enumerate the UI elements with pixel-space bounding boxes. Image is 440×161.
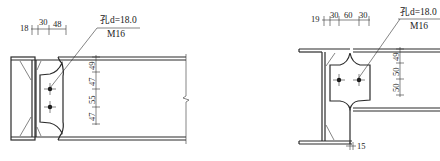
right-dim-15: 15 [357,141,366,151]
left-dim-47b: 47 [87,113,97,122]
left-top-dimension-chain: 18 30 48 [20,17,66,35]
left-dim-18: 18 [20,23,29,33]
left-dim-47a: 47 [87,78,97,87]
left-bolt-2 [44,101,56,113]
left-bolt-1 [44,83,56,95]
break-line [183,54,189,144]
right-dim-30a: 30 [330,10,339,20]
left-connection-detail: 18 30 48 孔d=18.0 M16 [11,15,189,144]
right-side-dimension-chain: 49 50 50 [391,47,404,97]
right-dim-30b: 30 [359,10,368,20]
right-bolt-label: M16 [410,21,428,31]
left-column [11,57,58,140]
right-bottom-dimension: 15 [346,141,366,151]
left-dim-30: 30 [39,17,48,27]
right-bolt-2 [353,74,365,86]
left-beam [58,54,189,144]
right-dim-50a: 50 [391,68,401,77]
right-dim-50b: 50 [391,84,401,93]
right-beam [350,49,440,144]
right-shear-plate [330,53,370,109]
left-shear-plate [40,63,63,133]
right-hole-label: 孔d=18.0 [400,7,437,17]
left-dim-55: 55 [87,96,97,105]
left-side-dimension-chain: 49 47 55 47 [87,55,100,125]
right-connection-detail: 19 30 60 30 孔d=18.0 M16 [299,7,440,151]
right-dim-60: 60 [344,10,353,20]
left-hole-label: 孔d=18.0 [100,15,137,25]
drawing-canvas: 18 30 48 孔d=18.0 M16 [0,0,440,161]
left-dim-48: 48 [53,19,62,29]
left-dim-49: 49 [87,62,97,71]
right-top-dimension-chain: 19 30 60 30 [311,10,370,26]
left-bolt-label: M16 [107,29,125,39]
right-bolt-1 [333,74,345,86]
right-dim-49: 49 [391,53,401,62]
right-dim-19: 19 [311,14,320,24]
